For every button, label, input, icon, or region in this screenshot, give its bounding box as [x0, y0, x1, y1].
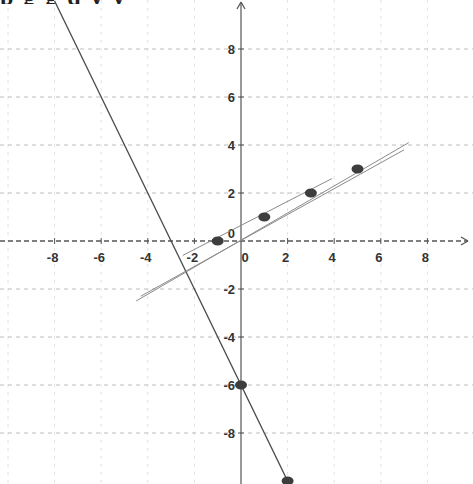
x-tick-label: 8: [422, 250, 429, 265]
x-tick-label: 0: [241, 250, 248, 265]
y-tick-label: -2: [223, 282, 235, 297]
fit-line: [136, 143, 409, 301]
x-tick-label: 6: [375, 250, 382, 265]
data-point: [282, 477, 294, 484]
y-tick-label: -6: [223, 378, 235, 393]
plot-series: [55, 1, 409, 484]
data-point: [352, 165, 364, 174]
origin-label: 0: [228, 226, 235, 241]
x-tick-label: 2: [282, 250, 289, 265]
x-tick-label: -8: [47, 250, 59, 265]
x-tick-label: -6: [93, 250, 105, 265]
fit-line: [141, 150, 404, 296]
y-tick-label: 2: [228, 186, 235, 201]
y-tick-label: -8: [223, 426, 235, 441]
y-tick-label: -4: [223, 330, 235, 345]
grid-lines: [0, 0, 473, 484]
x-tick-label: 4: [329, 250, 337, 265]
data-point: [258, 213, 270, 222]
data-point: [235, 381, 247, 390]
y-tick-label: 4: [228, 138, 236, 153]
data-point: [305, 189, 317, 198]
coordinate-plane-chart: -8-6-4-2024688642-2-4-6-80: [0, 0, 473, 484]
y-tick-label: 6: [228, 90, 235, 105]
x-tick-label: -4: [140, 250, 152, 265]
steep-line: [55, 1, 290, 484]
data-point: [212, 237, 224, 246]
axes: [0, 2, 468, 484]
y-tick-label: 8: [228, 42, 235, 57]
